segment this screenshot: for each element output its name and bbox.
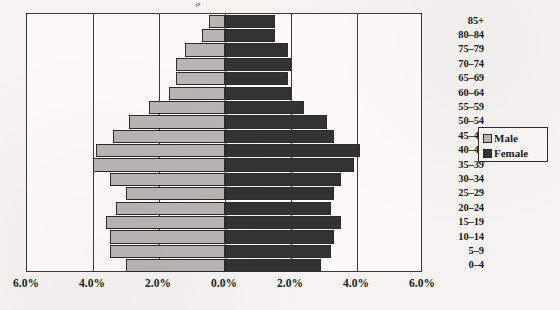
chart-title-cutoff: g — [168, 0, 228, 7]
bar-female-0–4 — [225, 259, 321, 272]
x-tick-label: 2.0% — [128, 276, 188, 290]
legend-label-male: Male — [494, 132, 518, 144]
bar-row — [27, 100, 421, 114]
bar-female-70–74 — [225, 58, 291, 71]
category-label-75–79: 75–79 — [426, 43, 484, 54]
bar-male-55–59 — [149, 101, 225, 114]
category-axis-labels: 0–45–910–1415–1920–2425–2930–3435–3940–4… — [426, 13, 484, 272]
x-tick-label: 0.0% — [194, 276, 254, 290]
bar-row — [27, 57, 421, 71]
bar-male-80–84 — [202, 29, 225, 42]
legend-item-female: Female — [483, 146, 547, 160]
bar-row — [27, 129, 421, 143]
bar-row — [27, 259, 421, 273]
category-label-60–64: 60–64 — [426, 87, 484, 98]
bar-male-65–69 — [176, 72, 226, 85]
bar-row — [27, 158, 421, 172]
bar-male-40–44 — [96, 144, 225, 157]
bar-female-45–49 — [225, 130, 334, 143]
category-label-40–44: 40–44 — [426, 144, 484, 155]
bar-rows — [27, 14, 421, 271]
bar-row — [27, 215, 421, 229]
category-label-45–49: 45–49 — [426, 130, 484, 141]
x-tick-label: 4.0% — [62, 276, 122, 290]
bar-male-15–19 — [106, 216, 225, 229]
bar-male-25–29 — [126, 187, 225, 200]
bar-row — [27, 187, 421, 201]
bar-male-50–54 — [129, 115, 225, 128]
bar-female-80–84 — [225, 29, 275, 42]
bar-female-25–29 — [225, 187, 334, 200]
bar-row — [27, 86, 421, 100]
category-label-25–29: 25–29 — [426, 187, 484, 198]
category-label-15–19: 15–19 — [426, 216, 484, 227]
value-axis-labels: 6.0%4.0%2.0%0.0%2.0%4.0%6.0% — [0, 276, 560, 296]
category-label-80–84: 80–84 — [426, 29, 484, 40]
category-label-30–34: 30–34 — [426, 173, 484, 184]
bar-row — [27, 144, 421, 158]
bar-male-75–79 — [185, 43, 225, 56]
bar-row — [27, 14, 421, 28]
x-tick-label: 4.0% — [326, 276, 386, 290]
bar-male-30–34 — [110, 173, 226, 186]
bar-row — [27, 172, 421, 186]
bar-row — [27, 115, 421, 129]
category-label-70–74: 70–74 — [426, 58, 484, 69]
bar-female-20–24 — [225, 202, 331, 215]
bar-female-40–44 — [225, 144, 360, 157]
category-label-5–9: 5–9 — [426, 245, 484, 256]
bar-female-85+ — [225, 15, 275, 28]
bar-male-45–49 — [113, 130, 225, 143]
bar-female-10–14 — [225, 230, 334, 243]
category-label-0–4: 0–4 — [426, 259, 484, 270]
bar-row — [27, 230, 421, 244]
category-label-20–24: 20–24 — [426, 202, 484, 213]
legend-swatch-male-icon — [483, 134, 492, 143]
bar-male-70–74 — [176, 58, 226, 71]
bar-row — [27, 72, 421, 86]
legend-swatch-female-icon — [483, 149, 492, 158]
population-pyramid-chart: g 0–45–910–1415–1920–2425–2930–3435–3940… — [0, 0, 560, 310]
bar-female-15–19 — [225, 216, 341, 229]
bar-female-60–64 — [225, 87, 291, 100]
bar-female-5–9 — [225, 245, 331, 258]
bar-male-35–39 — [93, 158, 225, 171]
bar-male-10–14 — [110, 230, 226, 243]
bar-male-5–9 — [110, 245, 226, 258]
bar-female-65–69 — [225, 72, 288, 85]
x-tick-label: 2.0% — [260, 276, 320, 290]
bar-female-35–39 — [225, 158, 354, 171]
bar-male-60–64 — [169, 87, 225, 100]
bar-female-30–34 — [225, 173, 341, 186]
bar-female-75–79 — [225, 43, 288, 56]
category-label-10–14: 10–14 — [426, 231, 484, 242]
bar-female-55–59 — [225, 101, 304, 114]
bar-female-50–54 — [225, 115, 327, 128]
bar-row — [27, 43, 421, 57]
bar-row — [27, 28, 421, 42]
category-label-55–59: 55–59 — [426, 101, 484, 112]
category-label-50–54: 50–54 — [426, 115, 484, 126]
bar-row — [27, 244, 421, 258]
category-label-35–39: 35–39 — [426, 159, 484, 170]
x-tick-label: 6.0% — [0, 276, 56, 290]
bar-row — [27, 201, 421, 215]
bar-male-0–4 — [126, 259, 225, 272]
category-label-85+: 85+ — [426, 15, 484, 26]
legend-item-male: Male — [483, 131, 547, 145]
legend-label-female: Female — [494, 147, 528, 159]
chart-legend: Male Female — [478, 127, 548, 162]
bar-male-85+ — [209, 15, 226, 28]
x-tick-label: 6.0% — [392, 276, 452, 290]
category-label-65–69: 65–69 — [426, 72, 484, 83]
plot-area — [26, 13, 422, 272]
bar-male-20–24 — [116, 202, 225, 215]
